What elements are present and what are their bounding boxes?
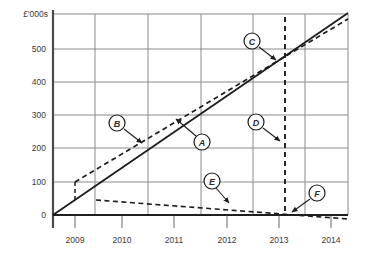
x-tick-label-2013: 2013 — [270, 235, 289, 245]
y-tick-label-0: 0 — [41, 210, 46, 220]
y-tick-label-500: 500 — [32, 44, 46, 54]
callout-b-label: B — [114, 119, 121, 129]
callout-a-label: A — [198, 138, 206, 148]
x-tick-label-2011: 2011 — [165, 235, 184, 245]
chart-background — [0, 0, 367, 260]
callout-c-label: C — [249, 37, 256, 47]
callout-f-label: F — [314, 189, 320, 199]
x-tick-label-2014: 2014 — [322, 235, 341, 245]
y-tick-label-100: 100 — [32, 177, 46, 187]
callout-d-label: D — [253, 118, 260, 128]
y-tick-label-400: 400 — [32, 77, 46, 87]
x-tick-label-2009: 2009 — [66, 235, 85, 245]
y-tick-label-300: 300 — [32, 110, 46, 120]
chart-page: 500 400 300 200 100 0 £'000s 2009 2010 2… — [0, 0, 367, 260]
x-tick-label-2010: 2010 — [113, 235, 132, 245]
y-axis-title: £'000s — [23, 9, 48, 19]
x-tick-label-2012: 2012 — [218, 235, 237, 245]
y-tick-label-200: 200 — [32, 143, 46, 153]
line-chart: 500 400 300 200 100 0 £'000s 2009 2010 2… — [0, 0, 367, 260]
callout-e-label: E — [209, 177, 216, 187]
